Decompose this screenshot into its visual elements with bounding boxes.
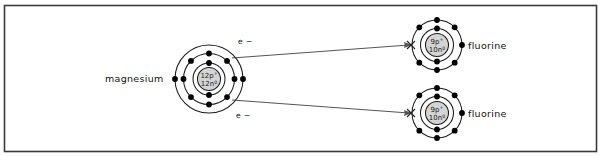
electron [434,67,440,73]
fluorine-top-label: fluorine [468,40,507,51]
diagram-canvas: 12p+12n0 9p+10n0 9p+10n0 magnesium fluor… [0,0,602,157]
electron [452,92,458,98]
electron-label-bottom: e − [236,111,251,120]
electron-label-top: e − [238,37,253,46]
electron [416,60,422,66]
fluorine-bottom-label: fluorine [468,108,507,119]
electron [206,51,212,57]
electron [206,60,212,66]
electron [416,92,422,98]
electron [452,128,458,134]
electron [434,85,440,91]
electron [224,58,230,64]
electron [172,76,178,82]
electron [232,76,238,82]
electron [459,42,465,48]
electron [434,94,440,100]
electron [224,94,230,100]
electron [188,58,194,64]
electron [434,127,440,133]
electron [416,128,422,134]
electron [434,135,440,141]
canvas-background [0,0,602,157]
electron [416,24,422,30]
electron [181,76,187,82]
electron [434,17,440,23]
ionic-bonding-diagram: 12p+12n0 9p+10n0 9p+10n0 magnesium fluor… [0,0,602,157]
electron [188,94,194,100]
electron [434,59,440,65]
electron [459,110,465,116]
electron [206,92,212,98]
electron [434,26,440,32]
magnesium-label: magnesium [105,73,164,84]
electron [452,24,458,30]
electron [206,102,212,108]
electron [452,60,458,66]
electron [240,76,246,82]
